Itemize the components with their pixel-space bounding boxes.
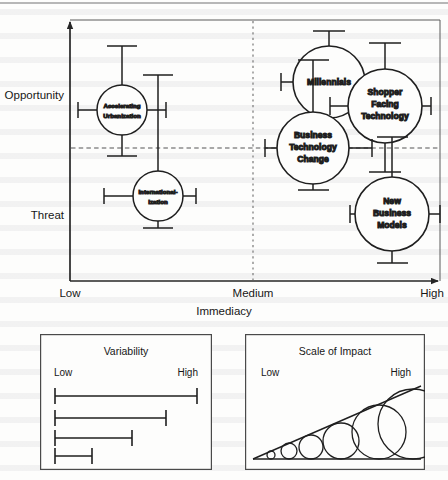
y-tick-label-threat: Threat (31, 209, 65, 221)
legend-scale-of-impact-high-label: High (390, 367, 411, 378)
bubble-label-line-3: Change (297, 154, 329, 164)
bubble-label-line-2: ization (148, 198, 168, 205)
y-tick-label-opportunity: Opportunity (5, 89, 65, 101)
bubble-label-line-2: Facing (371, 99, 399, 109)
legend-scale-of-impact-title: Scale of Impact (299, 345, 371, 357)
x-tick-label-high: High (420, 287, 444, 299)
bubble-accelerating-urbanization (97, 85, 147, 135)
legend-scale-of-impact-low-label: Low (261, 367, 280, 378)
figure-page: Opportunity Threat Low Medium High Immed… (0, 0, 448, 480)
bubble-internationalization (133, 171, 183, 221)
bubble-label-line-3: Models (377, 220, 407, 230)
legend-scale-of-impact: Scale of Impact Low High (245, 334, 425, 470)
bubble-label-line-2: Technology (289, 142, 337, 152)
legend-variability: Variability Low High (40, 334, 212, 470)
data-points: Accelerating Urbanization International-… (78, 31, 440, 263)
bubble-label-line-1: International- (138, 188, 177, 195)
bubble-label-line-2: Urbanization (103, 112, 141, 119)
x-tick-label-low: Low (59, 287, 81, 299)
bubble-label-line-2: Business (373, 208, 411, 218)
legend-variability-low-label: Low (54, 367, 73, 378)
bubble-label-line-1: Shopper (368, 87, 404, 97)
data-point-accelerating-urbanization[interactable]: Accelerating Urbanization (78, 46, 166, 156)
bubble-label-line-1: Business (294, 130, 332, 140)
bubble-label-line-1: New (383, 196, 401, 206)
bubble-label-line-3: Technology (361, 111, 409, 121)
bubble-chart: Opportunity Threat Low Medium High Immed… (0, 0, 448, 320)
bubble-label-line-1: Accelerating (103, 102, 140, 109)
x-axis-title: Immediacy (196, 305, 252, 317)
x-tick-label-medium: Medium (233, 287, 274, 299)
legend-variability-high-label: High (177, 367, 198, 378)
data-point-new-business-models[interactable]: New Business Models (350, 137, 440, 263)
legend-variability-title: Variability (104, 345, 149, 357)
